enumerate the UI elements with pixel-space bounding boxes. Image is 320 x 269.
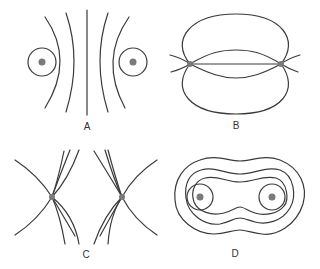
panel-a: A bbox=[28, 10, 147, 132]
panel-d: D bbox=[175, 158, 305, 259]
panel-b-outer-top bbox=[182, 14, 288, 64]
panel-a-label: A bbox=[84, 121, 91, 132]
panel-d-label: D bbox=[231, 248, 238, 259]
panel-b-inner-bottom bbox=[190, 64, 281, 78]
panel-b-outer-bottom bbox=[182, 64, 288, 114]
panel-d-left-charge bbox=[197, 194, 204, 201]
panel-c-left-point bbox=[49, 194, 55, 200]
panel-b: B bbox=[170, 14, 300, 131]
panel-c-curve bbox=[105, 150, 157, 235]
panel-a-left-charge bbox=[39, 59, 46, 66]
panel-c-curve bbox=[15, 160, 75, 236]
panel-c-curve bbox=[94, 151, 122, 244]
panel-c-curve bbox=[100, 160, 157, 236]
panel-b-label: B bbox=[233, 120, 240, 131]
panel-c-right-point bbox=[119, 194, 125, 200]
panel-a-curve bbox=[45, 17, 60, 108]
panel-a-curve bbox=[113, 17, 129, 108]
panel-d-right-charge bbox=[269, 194, 276, 201]
panel-a-curve bbox=[66, 13, 74, 112]
panel-b-left-charge bbox=[187, 61, 193, 67]
panel-c-curve bbox=[52, 150, 79, 244]
panel-b-right-charge bbox=[278, 61, 284, 67]
panel-a-curve bbox=[100, 13, 108, 112]
panel-c-label: C bbox=[82, 249, 89, 260]
panel-a-right-charge bbox=[130, 59, 137, 66]
panel-b-inner-top bbox=[190, 50, 281, 64]
diagram-canvas: A B C D bbox=[0, 0, 320, 269]
panel-c: C bbox=[15, 150, 157, 260]
